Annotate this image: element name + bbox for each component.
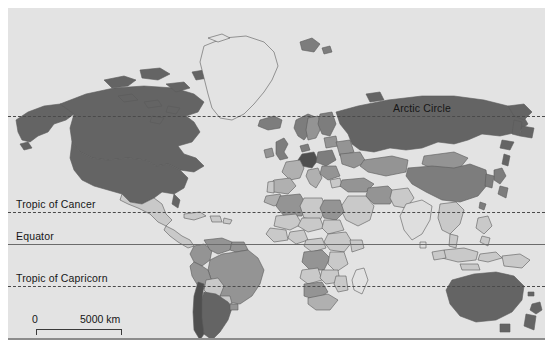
region-italy xyxy=(306,168,322,188)
scale-bar-tick-end xyxy=(121,329,122,335)
region-kenya xyxy=(328,252,348,272)
region-papua-new-guinea xyxy=(502,254,530,268)
map-panel[interactable]: .c{stroke:#5a5a5a;stroke-width:.6;stroke… xyxy=(8,8,545,340)
region-greenland xyxy=(200,36,278,120)
scale-bar-zero-label: 0 xyxy=(32,313,38,325)
region-japan xyxy=(494,168,506,184)
arctic-circle-label: Arctic Circle xyxy=(393,102,451,114)
equator-line xyxy=(8,244,545,245)
region-ireland xyxy=(264,148,274,158)
region-egypt xyxy=(320,200,344,220)
region-nigeria xyxy=(288,230,308,244)
region-poland xyxy=(316,150,336,166)
region-dr-congo xyxy=(302,250,330,270)
region-philippines xyxy=(476,216,492,234)
equator-label: Equator xyxy=(16,230,54,242)
region-france xyxy=(282,160,304,180)
scale-bar-max-label: 5000 km xyxy=(80,313,120,325)
region-new-zealand xyxy=(530,302,542,314)
region-saudi-arabia xyxy=(340,196,374,226)
region-kazakhstan xyxy=(360,156,408,176)
region-portugal xyxy=(267,181,274,193)
tropic-of-cancer-line xyxy=(8,212,545,213)
tropic-of-capricorn-line xyxy=(8,286,545,287)
region-madagascar xyxy=(352,268,368,294)
region-angola xyxy=(300,268,322,284)
world-map-figure: .c{stroke:#5a5a5a;stroke-width:.6;stroke… xyxy=(0,0,552,350)
region-china xyxy=(406,164,488,202)
scale-bar-tick-start xyxy=(36,329,37,335)
region-korea xyxy=(485,174,494,188)
region-southeast-asia xyxy=(438,202,464,234)
world-map-graphic[interactable]: .c{stroke:#5a5a5a;stroke-width:.6;stroke… xyxy=(8,8,545,338)
region-indonesia xyxy=(442,248,478,262)
arctic-circle-line xyxy=(8,116,545,117)
scale-bar-line xyxy=(36,329,121,330)
region-india xyxy=(400,200,432,240)
region-australia xyxy=(446,272,524,322)
region-uk xyxy=(276,138,288,160)
scale-bar: 0 5000 km xyxy=(28,311,148,340)
region-alaska xyxy=(16,104,74,142)
tropic-of-capricorn-label: Tropic of Capricorn xyxy=(16,272,108,284)
tropic-of-cancer-label: Tropic of Cancer xyxy=(16,198,96,210)
region-ethiopia xyxy=(324,232,352,252)
region-iceland xyxy=(258,116,282,130)
